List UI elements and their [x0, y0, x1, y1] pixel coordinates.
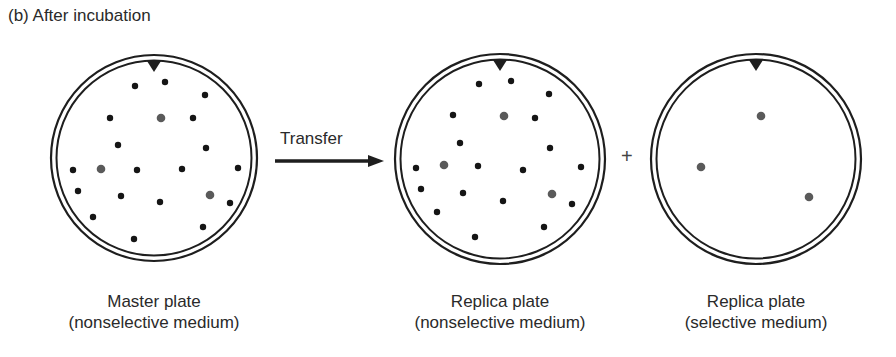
- plate-medium: (selective medium): [636, 312, 876, 333]
- plate-title: Replica plate: [636, 291, 876, 312]
- colony: [157, 199, 163, 205]
- plate-title: Master plate: [34, 291, 274, 312]
- plate-medium: (nonselective medium): [380, 312, 620, 333]
- colony: [450, 112, 456, 118]
- colony: [460, 190, 466, 196]
- colony-mutant: [805, 193, 814, 202]
- plate-inner-rim: [401, 60, 600, 259]
- colony: [190, 115, 196, 121]
- colony: [476, 81, 482, 87]
- colony: [179, 166, 185, 172]
- plate-outer-rim: [51, 55, 257, 261]
- colony: [546, 91, 552, 97]
- colony: [200, 224, 206, 230]
- transfer-label: Transfer: [280, 129, 343, 149]
- colony: [413, 165, 419, 171]
- colony: [75, 188, 81, 194]
- colony: [115, 142, 121, 148]
- plate-caption-replica-nonselective: Replica plate(nonselective medium): [380, 291, 620, 333]
- colony: [569, 201, 575, 207]
- colony-mutant: [157, 114, 166, 123]
- colony: [202, 92, 208, 98]
- colony: [90, 214, 96, 220]
- colony: [162, 79, 168, 85]
- plate-inner-rim: [657, 60, 856, 259]
- colony-mutant: [206, 191, 215, 200]
- colony-mutant: [97, 165, 106, 174]
- colony: [418, 186, 424, 192]
- petri-plate-master: [51, 55, 257, 261]
- colony: [532, 115, 538, 121]
- colony: [500, 198, 506, 204]
- plates-layer: [51, 54, 861, 264]
- colony: [227, 200, 233, 206]
- orientation-marker-icon: [749, 60, 763, 71]
- colony: [434, 209, 440, 215]
- plate-outer-rim: [651, 54, 861, 264]
- plate-caption-replica-selective: Replica plate(selective medium): [636, 291, 876, 333]
- colony: [475, 163, 481, 169]
- plate-inner-rim: [57, 61, 252, 256]
- colony: [107, 115, 113, 121]
- plate-caption-master: Master plate(nonselective medium): [34, 291, 274, 333]
- colony-mutant: [757, 112, 766, 121]
- colony: [203, 145, 209, 151]
- colony: [520, 167, 526, 173]
- plus-sign: +: [621, 145, 633, 168]
- plate-medium: (nonselective medium): [34, 312, 274, 333]
- colony: [235, 165, 241, 171]
- colony: [547, 145, 553, 151]
- colony: [457, 140, 463, 146]
- transfer-arrow: [275, 155, 384, 167]
- colony-mutant: [440, 161, 449, 170]
- colony: [132, 83, 138, 89]
- petri-plate-replica-nonselective: [395, 54, 605, 264]
- orientation-marker-icon: [493, 60, 507, 71]
- plate-outer-rim: [395, 54, 605, 264]
- petri-plate-replica-selective: [651, 54, 861, 264]
- colony: [541, 224, 547, 230]
- colony-mutant: [500, 112, 509, 121]
- plate-title: Replica plate: [380, 291, 620, 312]
- colony: [134, 167, 140, 173]
- colony: [70, 167, 76, 173]
- colony-mutant: [697, 163, 706, 172]
- colony: [131, 236, 137, 242]
- colony: [508, 78, 514, 84]
- colony: [118, 193, 124, 199]
- colony-mutant: [548, 190, 557, 199]
- colony: [578, 164, 584, 170]
- orientation-marker-icon: [147, 61, 161, 72]
- colony: [472, 234, 478, 240]
